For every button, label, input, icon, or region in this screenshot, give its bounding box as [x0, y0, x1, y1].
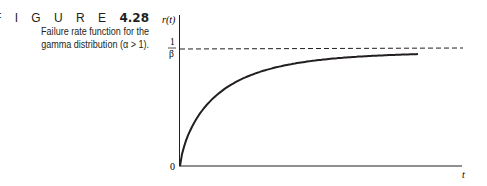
x-axis-label: t — [462, 169, 465, 180]
y-axis-label: r(t) — [162, 14, 176, 26]
asymptote-denominator: β — [169, 49, 174, 59]
asymptote-line — [180, 48, 463, 49]
chart: r(t) 0 1 β t — [0, 0, 487, 186]
origin-label: 0 — [170, 161, 175, 172]
failure-rate-curve — [180, 54, 418, 166]
asymptote-numerator: 1 — [170, 37, 175, 47]
